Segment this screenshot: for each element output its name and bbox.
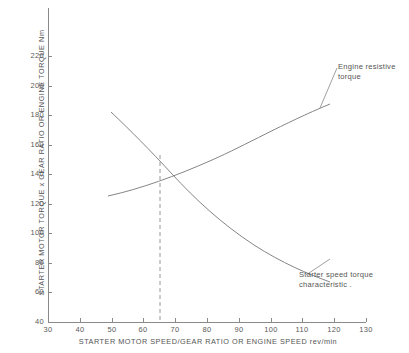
x-tick-label: 130	[354, 325, 378, 334]
series-starter-speed-torque	[111, 112, 330, 282]
x-tick-label: 50	[100, 325, 124, 334]
annotation-line: torque	[338, 72, 396, 82]
x-tick-label: 70	[163, 325, 187, 334]
annotation-line: characteristic .	[299, 280, 373, 290]
annotation-line: Starter speed torque	[299, 270, 373, 280]
x-tick-label: 80	[195, 325, 219, 334]
annotation-engine-resistive-torque: Engine resistive torque	[338, 62, 396, 81]
x-axis-title: STARTER MOTOR SPEED/GEAR RATIO OR ENGINE…	[48, 337, 368, 346]
engine-annotation-leader	[320, 68, 337, 108]
chart-canvas	[0, 0, 409, 353]
x-tick-label: 60	[131, 325, 155, 334]
x-tick-label: 110	[290, 325, 314, 334]
y-axis-title: STARTER MOTOR TORQUE x GEAR RATIO OR ENG…	[37, 18, 46, 308]
torque-speed-chart: 40 60 80 100 120 140 160 180 200 220 30 …	[0, 0, 409, 353]
x-axis-ticks	[48, 318, 366, 322]
x-tick-label: 100	[259, 325, 283, 334]
annotation-starter-speed-torque: Starter speed torque characteristic .	[299, 270, 373, 289]
annotation-line: Engine resistive	[338, 62, 396, 72]
y-axis-ticks	[48, 56, 52, 322]
series-engine-resistive-torque	[108, 104, 330, 196]
x-tick-label: 40	[68, 325, 92, 334]
x-tick-label: 120	[322, 325, 346, 334]
x-tick-label: 30	[36, 325, 60, 334]
x-tick-label: 90	[227, 325, 251, 334]
